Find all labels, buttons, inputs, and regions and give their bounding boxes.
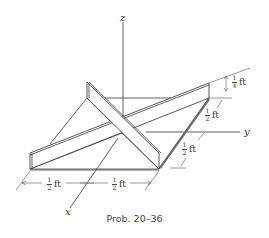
dim-label-bottom-left: 12 ft bbox=[47, 177, 61, 191]
dim-label-quarter-ft: 14 ft bbox=[232, 75, 246, 89]
dim-label-right-lower: 12 ft bbox=[182, 142, 196, 156]
y-axis-label: y bbox=[244, 127, 250, 137]
z-axis-label: z bbox=[120, 13, 125, 23]
diagonal-plate bbox=[87, 82, 161, 169]
diagram-canvas bbox=[0, 0, 269, 238]
dim-label-bottom-right: 12 ft bbox=[112, 177, 126, 191]
dim-bottom bbox=[16, 171, 159, 190]
figure-caption: Prob. 20–36 bbox=[0, 213, 269, 224]
dim-label-right-upper: 12 ft bbox=[205, 108, 219, 122]
